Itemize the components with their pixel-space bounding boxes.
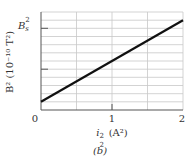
bs-sup: 2 bbox=[25, 16, 29, 24]
figure-caption: (b) bbox=[93, 145, 107, 156]
y-axis-label: B² (10⁻¹⁰ T²) bbox=[4, 31, 15, 93]
bs-tick-label: B2s bbox=[18, 20, 25, 31]
x-label-sup: 2 bbox=[99, 132, 103, 140]
x-tick-0: 0 bbox=[32, 113, 38, 124]
x-tick-2: 2 bbox=[179, 113, 185, 124]
x-label-unit: (A²) bbox=[109, 127, 128, 138]
x-axis-label: i22 (A²) bbox=[96, 127, 127, 138]
bs-sub: s bbox=[25, 25, 29, 33]
bs-main: B bbox=[18, 20, 25, 31]
x-tick-1: 1 bbox=[109, 113, 115, 124]
